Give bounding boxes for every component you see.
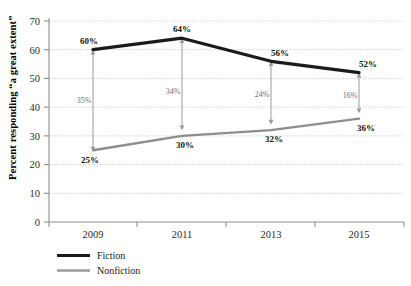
line-chart: 70 60 50 40 30 20 10 0 2009 2011 2013 20…	[0, 0, 411, 286]
y-tick-label: 40	[30, 102, 41, 113]
y-tick-label: 0	[35, 217, 40, 228]
y-tick-label: 70	[30, 16, 41, 27]
data-label-fiction-2011: 64%	[173, 24, 191, 34]
legend-label-fiction: Fiction	[97, 250, 125, 261]
difference-label-2013: 24%	[255, 90, 270, 99]
y-tick-label: 30	[30, 131, 41, 142]
x-tick-label: 2009	[83, 229, 104, 240]
data-label-nonfiction-2013: 32%	[265, 134, 283, 144]
x-tick-label: 2013	[261, 229, 282, 240]
chart-container: 70 60 50 40 30 20 10 0 2009 2011 2013 20…	[0, 0, 411, 286]
legend-label-nonfiction: Nonfiction	[97, 265, 140, 276]
y-tick-label: 20	[30, 159, 41, 170]
x-tick-label: 2015	[349, 229, 370, 240]
y-axis-title: Percent responding “a great extent”	[7, 16, 18, 180]
x-tick-label: 2011	[172, 229, 193, 240]
difference-label-2011: 34%	[166, 87, 181, 96]
data-label-nonfiction-2011: 30%	[176, 140, 194, 150]
data-label-fiction-2009: 60%	[80, 36, 98, 46]
data-label-nonfiction-2015: 36%	[357, 123, 375, 133]
difference-label-2009: 35%	[77, 96, 92, 105]
y-tick-label: 10	[30, 188, 41, 199]
difference-label-2015: 16%	[343, 91, 358, 100]
y-tick-label: 50	[30, 73, 41, 84]
data-label-nonfiction-2009: 25%	[81, 155, 99, 165]
data-label-fiction-2013: 56%	[271, 48, 289, 58]
data-label-fiction-2015: 52%	[359, 59, 377, 69]
y-tick-label: 60	[30, 45, 41, 56]
